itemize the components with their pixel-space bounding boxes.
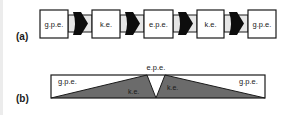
connector-3 <box>173 12 197 35</box>
box-gpe-2: g.p.e. <box>248 10 276 38</box>
box-label: g.p.e. <box>253 20 272 29</box>
box-label: e.p.e. <box>149 20 168 29</box>
ke-left-label: k.e. <box>128 88 139 95</box>
connector-2 <box>120 12 144 35</box>
ke-right-label: k.e. <box>167 84 178 91</box>
connector-1 <box>68 12 92 35</box>
panel-b: (b) e.p.e. g.p.e. k.e. k.e. g.p.e. <box>16 63 265 104</box>
panel-a: (a) g.p.e. k.e. e.p.e. <box>16 10 276 42</box>
gpe-right-label: g.p.e. <box>239 77 258 86</box>
box-epe: e.p.e. <box>144 10 173 38</box>
energy-diagram: (a) g.p.e. k.e. e.p.e. <box>0 0 289 115</box>
box-ke-1: k.e. <box>92 10 120 38</box>
panel-b-label: (b) <box>16 93 29 104</box>
gpe-left-label: g.p.e. <box>58 77 77 86</box>
box-gpe-1: g.p.e. <box>40 10 68 38</box>
box-ke-2: k.e. <box>197 10 224 38</box>
epe-top-label: e.p.e. <box>147 63 166 72</box>
box-label: g.p.e. <box>45 20 64 29</box>
box-label: k.e. <box>100 20 112 29</box>
panel-a-label: (a) <box>16 31 28 42</box>
connector-4 <box>224 12 248 35</box>
box-label: k.e. <box>204 20 216 29</box>
